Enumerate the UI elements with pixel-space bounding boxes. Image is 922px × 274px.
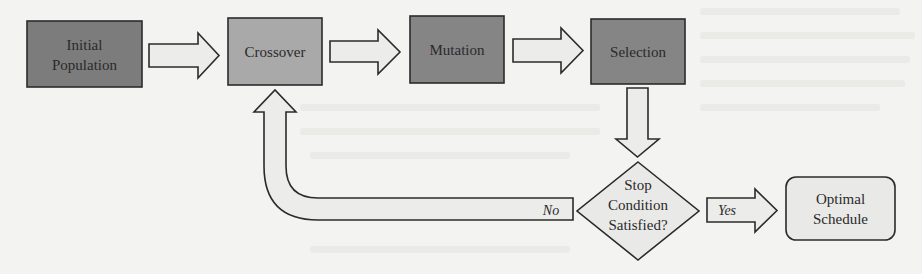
arrow-crossover-to-mutation	[330, 30, 400, 74]
initial-population-box	[27, 21, 142, 87]
node-selection: Selection	[591, 19, 685, 84]
edge-label-yes: Yes	[718, 203, 737, 218]
optimal-schedule-label-line2: Schedule	[813, 211, 868, 227]
initial-population-label-line1: Initial	[67, 37, 103, 53]
stop-condition-label-line1: Stop	[624, 177, 652, 193]
edge-label-no: No	[542, 203, 559, 218]
stop-condition-label-line2: Condition	[608, 197, 669, 213]
node-crossover: Crossover	[228, 18, 322, 85]
node-optimal-schedule: Optimal Schedule	[786, 177, 895, 240]
flowchart: Initial Population Crossover Mutation Se…	[0, 0, 922, 274]
arrow-stop-to-crossover-no	[254, 90, 573, 220]
arrow-mutation-to-selection	[513, 28, 583, 73]
arrow-selection-to-stop	[616, 88, 659, 157]
optimal-schedule-box	[786, 177, 895, 240]
mutation-label: Mutation	[430, 42, 485, 58]
selection-label: Selection	[610, 44, 666, 60]
initial-population-label-line2: Population	[52, 57, 118, 73]
node-stop-condition: Stop Condition Satisfied?	[577, 162, 699, 260]
node-mutation: Mutation	[410, 16, 504, 83]
crossover-label: Crossover	[245, 44, 306, 60]
stop-condition-label-line3: Satisfied?	[608, 217, 667, 233]
optimal-schedule-label-line1: Optimal	[816, 191, 865, 207]
node-initial-population: Initial Population	[27, 21, 142, 87]
arrow-initial-to-crossover	[149, 33, 219, 78]
